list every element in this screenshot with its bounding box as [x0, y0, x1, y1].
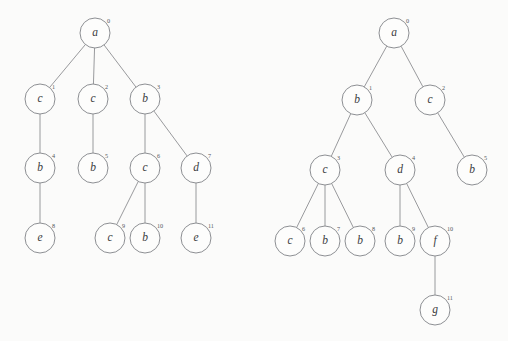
right-tree: a0b1c2c3d4b5c6b7b8b9f10g11 — [275, 17, 487, 325]
tree-node[interactable]: c3 — [310, 154, 340, 185]
node-index: 3 — [337, 154, 340, 161]
node-index: 2 — [105, 83, 108, 90]
node-index: 4 — [52, 152, 55, 159]
node-label: c — [427, 93, 432, 105]
node-label: c — [107, 231, 112, 243]
node-index: 8 — [372, 225, 375, 232]
tree-node[interactable]: a0 — [80, 17, 110, 48]
tree-node[interactable]: b4 — [25, 152, 55, 183]
tree-edge — [407, 183, 429, 227]
node-index: 0 — [406, 17, 409, 24]
node-index: 6 — [157, 152, 160, 159]
node-label: b — [469, 163, 475, 175]
left-tree: a0c1c2b3b4b5c6d7e8c9b10e11 — [25, 17, 214, 253]
tree-edge — [365, 113, 392, 157]
node-label: d — [397, 163, 403, 175]
left-tree-edges — [40, 45, 196, 225]
tree-edge — [117, 181, 139, 224]
tree-edge — [364, 46, 387, 87]
node-index: 10 — [157, 222, 163, 229]
node-label: e — [37, 231, 42, 243]
node-label: b — [357, 234, 363, 246]
tree-edge — [401, 46, 423, 87]
node-index: 9 — [122, 222, 125, 229]
node-label: a — [391, 26, 397, 38]
node-index: 11 — [447, 294, 453, 301]
tree-node[interactable]: g11 — [420, 294, 453, 325]
node-label: a — [92, 26, 98, 38]
tree-edge — [93, 48, 94, 84]
node-label: g — [432, 303, 438, 316]
node-label: b — [37, 161, 43, 173]
tree-node[interactable]: c2 — [415, 84, 445, 115]
tree-edge — [332, 183, 354, 227]
tree-node[interactable]: c2 — [78, 83, 108, 114]
node-index: 10 — [447, 225, 453, 232]
tree-node[interactable]: c1 — [25, 83, 55, 114]
node-index: 1 — [52, 83, 55, 90]
node-index: 2 — [442, 84, 445, 91]
node-label: b — [142, 92, 148, 104]
node-label: b — [354, 93, 360, 105]
tree-node[interactable]: b5 — [78, 152, 108, 183]
node-index: 8 — [52, 222, 55, 229]
tree-node[interactable]: d7 — [181, 152, 211, 183]
tree-node[interactable]: b8 — [345, 225, 375, 256]
tree-node[interactable]: b10 — [130, 222, 163, 253]
tree-node[interactable]: e8 — [25, 222, 55, 253]
node-index: 11 — [208, 222, 214, 229]
node-index: 9 — [412, 225, 415, 232]
node-index: 0 — [107, 17, 110, 24]
node-index: 3 — [157, 83, 160, 90]
node-label: c — [322, 163, 327, 175]
tree-edge — [438, 113, 465, 157]
node-label: b — [397, 234, 403, 246]
node-index: 1 — [369, 84, 372, 91]
tree-edge — [154, 111, 187, 156]
tree-node[interactable]: d4 — [385, 154, 415, 185]
tree-edge — [50, 45, 86, 88]
node-label: e — [193, 231, 198, 243]
node-index: 5 — [105, 152, 108, 159]
tree-node[interactable]: f10 — [420, 225, 453, 256]
node-label: c — [90, 92, 95, 104]
tree-node[interactable]: b9 — [385, 225, 415, 256]
tree-node[interactable]: c6 — [130, 152, 160, 183]
tree-node[interactable]: c6 — [275, 225, 305, 256]
node-index: 5 — [484, 154, 487, 161]
tree-node[interactable]: c9 — [95, 222, 125, 253]
tree-diagram-canvas: a0c1c2b3b4b5c6d7e8c9b10e11a0b1c2c3d4b5c6… — [0, 0, 508, 341]
node-index: 6 — [302, 225, 305, 232]
node-label: c — [37, 92, 42, 104]
tree-node[interactable]: b5 — [457, 154, 487, 185]
tree-node[interactable]: b7 — [310, 225, 340, 256]
tree-node[interactable]: a0 — [379, 17, 409, 48]
node-index: 7 — [337, 225, 340, 232]
node-index: 7 — [208, 152, 211, 159]
tree-node[interactable]: b3 — [130, 83, 160, 114]
tree-edge — [297, 183, 319, 227]
tree-node[interactable]: b1 — [342, 84, 372, 115]
node-label: c — [142, 161, 147, 173]
node-label: b — [90, 161, 96, 173]
tree-edge — [104, 45, 136, 87]
node-label: b — [322, 234, 328, 246]
tree-edge — [331, 114, 351, 157]
tree-node[interactable]: e11 — [181, 222, 214, 253]
node-label: c — [287, 234, 292, 246]
node-label: d — [193, 161, 199, 173]
tree-figure: a0c1c2b3b4b5c6d7e8c9b10e11a0b1c2c3d4b5c6… — [0, 0, 508, 341]
node-index: 4 — [412, 154, 415, 161]
node-label: b — [142, 231, 148, 243]
